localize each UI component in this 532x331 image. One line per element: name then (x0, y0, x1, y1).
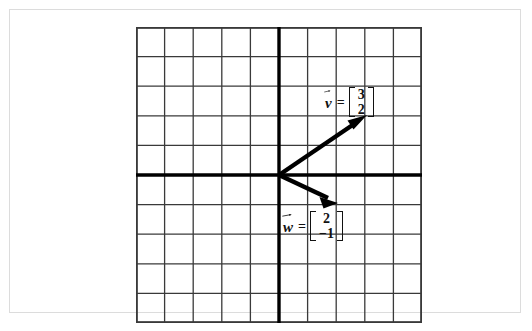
matrix-cell-y: −1 (319, 226, 334, 241)
figure-card: v = 3 2 (9, 9, 521, 313)
matrix-column: 3 2 (355, 87, 368, 117)
matrix-column: 2 −1 (316, 211, 337, 241)
vector-w-arrow (279, 175, 338, 209)
vector-v-matrix: 3 2 (349, 87, 374, 117)
figure-caption (14, 320, 314, 330)
vector-diagram-figure: v = 3 2 (136, 27, 422, 323)
vector-w-name: w (283, 217, 293, 235)
vector-w-matrix: 2 −1 (310, 211, 343, 241)
matrix-cell-y: 2 (358, 102, 365, 117)
vector-v-label: v = 3 2 (325, 87, 374, 117)
screenshot-root: v = 3 2 (0, 0, 532, 331)
vector-w-equals: = (298, 218, 306, 234)
matrix-bracket-right (368, 87, 374, 117)
matrix-cell-x: 2 (323, 211, 330, 226)
matrix-cell-x: 3 (358, 87, 365, 102)
vector-v-name: v (325, 93, 332, 111)
vector-v-letter: v (325, 95, 332, 111)
vector-w-letter: w (283, 219, 293, 235)
matrix-bracket-right (337, 211, 343, 241)
vector-arrow-accent-icon (282, 212, 292, 219)
vector-w-label: w = 2 −1 (283, 211, 343, 241)
vector-arrow-accent-icon (324, 88, 331, 95)
coordinate-grid (136, 27, 422, 323)
vector-v-equals: = (337, 94, 345, 110)
